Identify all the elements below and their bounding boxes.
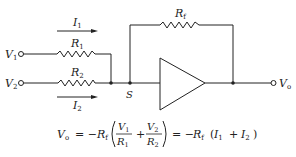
- feedback-wire-right: [199, 25, 233, 83]
- r2-label: R2: [70, 66, 84, 80]
- vo-label: Vo: [279, 77, 291, 91]
- node-junction: [109, 81, 113, 85]
- v1-terminal: [19, 52, 24, 57]
- svg-text:+: +: [136, 128, 145, 141]
- svg-text:Vo: Vo: [57, 128, 69, 142]
- left-paren: [112, 121, 115, 147]
- svg-text:R1: R1: [116, 136, 129, 149]
- vo-terminal: [271, 81, 276, 86]
- i1-label: I1: [72, 16, 82, 30]
- svg-text:= −: = −: [75, 128, 97, 141]
- rf-label: Rf: [174, 7, 187, 21]
- svg-text:+: +: [229, 128, 238, 141]
- svg-text:I1: I1: [213, 128, 223, 142]
- svg-text:V2: V2: [147, 121, 158, 134]
- svg-text:): ): [253, 128, 257, 141]
- rf-resistor: [160, 22, 199, 28]
- summing-point-junction: [128, 81, 132, 85]
- r1-resistor: [57, 51, 95, 57]
- svg-text:R2: R2: [146, 136, 159, 149]
- right-paren: [163, 121, 166, 147]
- op-amp-triangle: [160, 58, 205, 110]
- i1-arrow-head: [91, 29, 98, 33]
- feedback-wire-left: [130, 25, 160, 83]
- i2-label: I2: [72, 99, 82, 113]
- v2-terminal: [19, 81, 24, 86]
- svg-text:= −: = −: [172, 128, 194, 141]
- svg-text:V1: V1: [118, 121, 129, 134]
- v1-label: V1: [5, 48, 17, 62]
- r2-resistor: [58, 80, 95, 86]
- svg-text:Rf: Rf: [96, 128, 109, 142]
- summing-point-label: S: [126, 89, 133, 100]
- output-equation: Vo = − Rf V1 R1 + V2 R2 = − Rf ( I1 + I2…: [57, 121, 257, 149]
- r1-to-node-wire: [95, 54, 111, 83]
- summing-amplifier-diagram: V1 V2 Vo R1 R2 Rf I1 I2 S Vo = − Rf V1 R…: [0, 0, 296, 157]
- svg-text:I2: I2: [240, 128, 250, 142]
- svg-text:Rf: Rf: [192, 128, 205, 142]
- output-junction: [231, 81, 235, 85]
- v2-label: V2: [5, 77, 17, 91]
- i2-arrow-head: [91, 95, 98, 99]
- r1-label: R1: [70, 37, 84, 51]
